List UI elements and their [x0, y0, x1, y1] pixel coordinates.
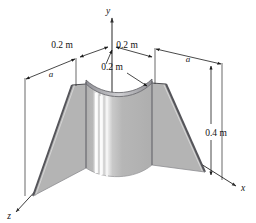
left-panel [33, 84, 86, 196]
right-panel [152, 83, 205, 172]
left-a-label: a [49, 69, 54, 79]
height-label: 0.4 m [205, 128, 227, 138]
top-left-label: 0.2 m [51, 40, 73, 50]
figure-canvas: a a 0.4 m 0.2 m 0.2 m 0.2 m [0, 0, 256, 223]
engineering-figure: a a 0.4 m 0.2 m 0.2 m 0.2 m [0, 0, 256, 223]
dimension-center-radius: 0.2 m [101, 50, 147, 86]
top-left-leader [80, 47, 108, 57]
curved-shell [86, 79, 152, 177]
y-axis-label: y [105, 6, 111, 16]
dimension-top-left: 0.2 m [51, 40, 108, 57]
dimension-top-right: 0.2 m [116, 40, 152, 57]
z-axis-label: z [6, 211, 11, 221]
right-a-label: a [186, 54, 191, 64]
x-axis-label: x [240, 183, 246, 193]
top-right-label: 0.2 m [116, 40, 138, 50]
center-radius-label: 0.2 m [101, 62, 123, 72]
dimension-height: 0.4 m [205, 66, 227, 175]
center-radius-leader-right [127, 73, 147, 86]
